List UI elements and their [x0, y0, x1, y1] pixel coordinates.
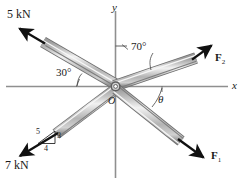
cable-f1-body [116, 89, 181, 141]
angle-70-tick-arm [122, 45, 128, 50]
cable-f1-highlight [114, 91, 179, 143]
cable-f1-shadow [118, 86, 183, 138]
slope-label-vertical: 3 [57, 132, 61, 140]
cable-5kn [20, 29, 119, 89]
cable-f2 [114, 46, 212, 90]
force-5kn-arrow [20, 29, 46, 44]
figure-caption [0, 179, 244, 184]
force-f2-arrow [192, 46, 212, 60]
slope-label-hypotenuse: 5 [36, 128, 40, 136]
cable-7kn-highlight [55, 85, 115, 131]
y-axis-label: y [112, 2, 117, 13]
angle-label-30: 30° [56, 67, 71, 78]
cable-f2-shadow [115, 61, 196, 89]
force-label-f2: F2 [215, 52, 225, 66]
force-label-f2-symbol: F [215, 51, 222, 63]
force-diagram-figure: 5 kN 7 kN F2 F1 70° 30° θ y x O 5 3 4 [0, 0, 244, 184]
force-label-f1: F1 [211, 150, 221, 164]
force-7kn-arrow [20, 133, 58, 156]
pin-inner-hole [114, 85, 118, 89]
cable-f2-highlight [114, 55, 195, 83]
angle-label-theta: θ [158, 94, 163, 105]
force-diagram-canvas [0, 0, 244, 184]
cable-f2-body [114, 58, 196, 86]
force-label-7kn: 7 kN [5, 159, 29, 171]
force-label-f2-subscript: 2 [222, 58, 226, 66]
cable-7kn [20, 85, 119, 156]
angle-label-70: 70° [131, 41, 146, 52]
force-label-f1-symbol: F [211, 149, 218, 161]
force-label-f1-subscript: 1 [218, 156, 222, 164]
x-axis-label: x [232, 80, 237, 91]
pin-ring-at-origin [111, 82, 120, 91]
cable-5kn-highlight [44, 41, 115, 83]
force-f1-arrow [178, 139, 204, 158]
origin-label: O [108, 96, 115, 106]
cable-5kn-body [43, 42, 117, 85]
force-label-5kn: 5 kN [7, 8, 31, 20]
slope-label-horizontal: 4 [44, 145, 48, 153]
